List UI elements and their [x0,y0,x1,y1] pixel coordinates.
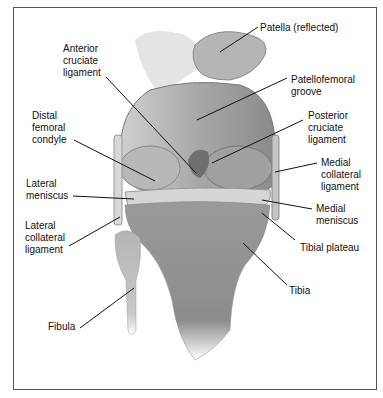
label-tibia: Tibia [289,285,310,297]
label-lateral-meniscus: Lateral meniscus [26,178,68,202]
label-distal-femoral-condyle: Distal femoral condyle [32,110,66,146]
tibia-shape [125,202,270,361]
lcl-shape [114,135,122,225]
label-medial-meniscus: Medial meniscus [316,203,358,227]
label-patellofemoral-groove: Patellofemoral groove [291,74,355,98]
fibula-shape [115,231,141,335]
label-tibial-plateau: Tibial plateau [300,242,359,254]
label-acl: Anterior cruciate ligament [63,43,101,79]
label-lcl: Lateral collateral ligament [25,220,65,256]
patella-shape [193,32,266,80]
label-fibula: Fibula [48,321,75,333]
mcl-shape [272,135,279,220]
medial-condyle-shape [204,146,272,190]
label-mcl: Medial collateral ligament [321,157,361,193]
label-patella: Patella (reflected) [260,22,338,34]
label-pcl: Posterior cruciate ligament [308,110,348,146]
